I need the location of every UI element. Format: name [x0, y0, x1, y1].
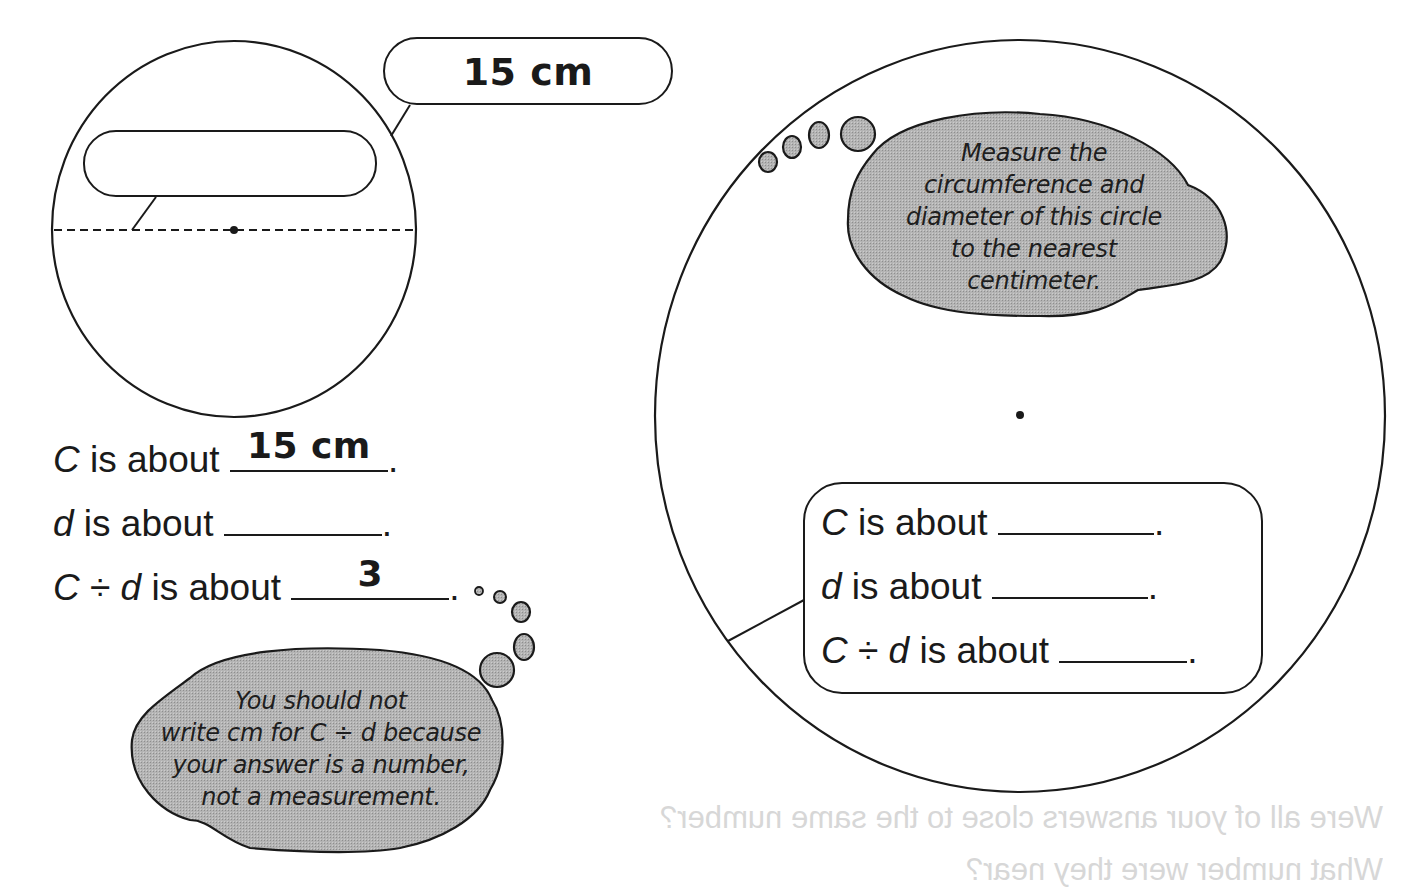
answer-blank[interactable]: 3: [291, 592, 449, 600]
label-text: is about: [909, 630, 1049, 671]
diameter-callout: [84, 131, 376, 230]
center-point: [1016, 411, 1024, 419]
variable-c: C: [53, 439, 80, 480]
variable-c: C: [53, 567, 80, 608]
label-text: is about: [74, 503, 214, 544]
period: .: [388, 439, 398, 480]
period: .: [1148, 566, 1158, 607]
large-answer-ratio: C ÷ d is about .: [821, 632, 1198, 669]
label-text: is about: [848, 502, 988, 543]
variable-d: d: [53, 503, 74, 544]
period: .: [1154, 502, 1164, 543]
label-text: is about: [842, 566, 982, 607]
bubble-line: Measure the: [862, 137, 1206, 169]
small-circle: [52, 41, 416, 417]
bubble-line: not a measurement.: [140, 781, 502, 813]
variable-d: d: [121, 567, 142, 608]
variable-c: C: [821, 630, 848, 671]
period: .: [449, 567, 459, 608]
bubble-line: centimeter.: [862, 265, 1206, 297]
variable-d: d: [889, 630, 910, 671]
bleed-through-line-2: What number were they near?: [966, 852, 1383, 888]
label-text: is about: [80, 439, 220, 480]
small-answer-ratio: C ÷ d is about 3.: [53, 569, 460, 606]
large-bubble-text: Measure the circumference and diameter o…: [862, 137, 1206, 297]
small-answer-diameter: d is about .: [53, 505, 392, 542]
bubble-line: write cm for C ÷ d because: [140, 717, 502, 749]
period: .: [382, 503, 392, 544]
answer-value: 15 cm: [230, 428, 388, 464]
large-answer-diameter: d is about .: [821, 568, 1158, 605]
period: .: [1187, 630, 1197, 671]
bubble-line: your answer is a number,: [140, 749, 502, 781]
bleed-through-line-1: Were all of your answers close to the sa…: [660, 800, 1383, 836]
answer-blank[interactable]: [224, 528, 382, 536]
small-answer-circumference: C is about 15 cm.: [53, 441, 398, 478]
divide-sign: ÷: [848, 630, 889, 671]
bubble-line: to the nearest: [862, 233, 1206, 265]
bubble-line: You should not: [140, 685, 502, 717]
answer-blank[interactable]: [992, 591, 1148, 599]
label-text: is about: [141, 567, 281, 608]
variable-d: d: [821, 566, 842, 607]
answer-blank[interactable]: 15 cm: [230, 464, 388, 472]
answer-blank[interactable]: [1059, 655, 1187, 663]
small-bubble-text: You should not write cm for C ÷ d becaus…: [140, 685, 502, 813]
answer-box-pointer: [728, 600, 804, 641]
variable-c: C: [821, 502, 848, 543]
bubble-line: diameter of this circle: [862, 201, 1206, 233]
circumference-value: 15 cm: [384, 50, 672, 94]
center-point: [230, 226, 238, 234]
divide-sign: ÷: [80, 567, 121, 608]
answer-value: 3: [291, 556, 449, 592]
answer-blank[interactable]: [998, 527, 1154, 535]
bubble-line: circumference and: [862, 169, 1206, 201]
large-answer-circumference: C is about .: [821, 504, 1164, 541]
